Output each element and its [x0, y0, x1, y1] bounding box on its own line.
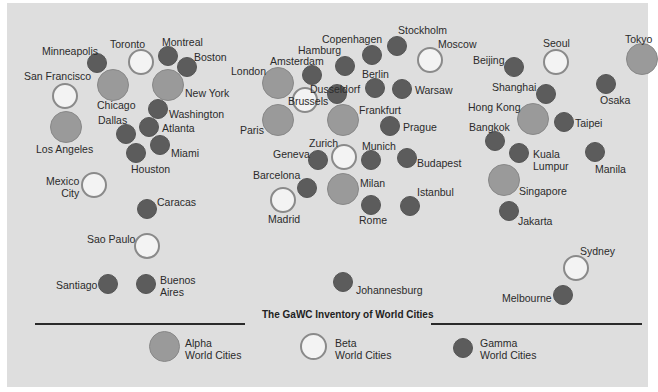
- city-label-minneapolis: Minneapolis: [42, 45, 98, 57]
- city-marker-santiago: [98, 274, 118, 294]
- city-marker-paris: [262, 104, 294, 136]
- city-marker-sao-paulo: [134, 233, 160, 259]
- city-marker-prague: [380, 116, 400, 136]
- city-marker-munich: [361, 150, 381, 170]
- city-label-los-angeles: Los Angeles: [36, 143, 93, 155]
- city-marker-seoul: [543, 49, 569, 75]
- city-label-montreal: Montreal: [162, 36, 203, 48]
- legend-gamma-icon: [453, 338, 473, 358]
- city-label-singapore: Singapore: [519, 185, 567, 197]
- city-label-buenos-aires: BuenosAires: [160, 274, 196, 298]
- city-label-shanghai: Shanghai: [492, 81, 536, 93]
- city-marker-melbourne: [553, 285, 573, 305]
- city-label-caracas: Caracas: [157, 196, 196, 208]
- city-label-amsterdam: Amsterdam: [270, 55, 324, 67]
- city-label-santiago: Santiago: [56, 279, 97, 291]
- legend-alpha-icon: [149, 331, 180, 362]
- legend-gamma-line2: World Cities: [480, 349, 536, 361]
- city-label-moscow: Moscow: [438, 38, 477, 50]
- city-marker-copenhagen: [362, 45, 382, 65]
- city-label-sao-paulo: Sao Paulo: [87, 233, 135, 245]
- city-marker-kuala-lumpur: [509, 143, 529, 163]
- city-label-dusseldorf: Dusseldorf: [310, 83, 360, 95]
- city-label-budapest: Budapest: [417, 157, 461, 169]
- city-marker-istanbul: [400, 196, 420, 216]
- city-label-rome: Rome: [359, 214, 387, 226]
- city-label-houston: Houston: [131, 163, 170, 175]
- city-label-hong-kong: Hong Kong: [468, 101, 521, 113]
- city-marker-miami: [150, 135, 170, 155]
- legend-beta-icon: [300, 333, 327, 360]
- divider-left: [35, 323, 245, 325]
- city-marker-jakarta: [499, 201, 519, 221]
- city-label-beijing: Beijing: [473, 54, 505, 66]
- city-label-toronto: Toronto: [110, 38, 145, 50]
- city-label-zurich: Zurich: [309, 137, 338, 149]
- city-marker-shanghai: [536, 84, 556, 104]
- city-marker-buenos-aires: [136, 274, 156, 294]
- city-marker-milan: [327, 173, 359, 205]
- city-marker-caracas: [137, 199, 157, 219]
- city-label-madrid: Madrid: [268, 213, 300, 225]
- city-label-san-francisco: San Francisco: [24, 70, 91, 82]
- city-marker-warsaw: [392, 79, 412, 99]
- city-label-melbourne: Melbourne: [502, 292, 552, 304]
- city-label-london: London: [231, 65, 266, 77]
- city-label-new-york: New York: [185, 87, 229, 99]
- city-label-miami: Miami: [171, 147, 199, 159]
- city-marker-amsterdam: [302, 65, 322, 85]
- city-label-mexico-city: MexicoCity: [46, 175, 79, 199]
- city-marker-chicago: [97, 69, 129, 101]
- legend-alpha-label: Alpha World Cities: [185, 337, 241, 361]
- city-label-dallas: Dallas: [98, 114, 127, 126]
- city-label-copenhagen: Copenhagen: [322, 33, 382, 45]
- city-marker-berlin: [365, 78, 385, 98]
- city-marker-hamburg: [335, 56, 355, 76]
- divider-right: [431, 323, 642, 325]
- city-marker-taipei: [554, 112, 574, 132]
- city-marker-los-angeles: [50, 111, 82, 143]
- city-label-seoul: Seoul: [543, 37, 570, 49]
- city-label-taipei: Taipei: [575, 117, 602, 129]
- city-marker-geneva: [308, 150, 328, 170]
- city-label-osaka: Osaka: [600, 94, 630, 106]
- city-marker-stockholm: [387, 36, 407, 56]
- city-marker-budapest: [397, 148, 417, 168]
- city-marker-montreal: [158, 46, 178, 66]
- city-label-paris: Paris: [240, 124, 264, 136]
- city-marker-manila: [585, 142, 605, 162]
- city-label-atlanta: Atlanta: [162, 122, 195, 134]
- city-marker-rome: [361, 195, 381, 215]
- city-label-chicago: Chicago: [97, 99, 136, 111]
- legend-beta-line1: Beta: [335, 337, 391, 349]
- city-label-berlin: Berlin: [362, 68, 389, 80]
- city-marker-washington: [148, 99, 168, 119]
- city-marker-singapore: [488, 164, 520, 196]
- city-marker-houston: [126, 143, 146, 163]
- city-label-manila: Manila: [595, 163, 626, 175]
- city-marker-moscow: [417, 47, 443, 73]
- city-marker-toronto: [128, 49, 154, 75]
- city-marker-bangkok: [485, 131, 505, 151]
- city-label-brussels: Brussels: [288, 95, 328, 107]
- city-label-hamburg: Hamburg: [298, 44, 341, 56]
- city-label-barcelona: Barcelona: [253, 169, 300, 181]
- city-label-milan: Milan: [360, 177, 385, 189]
- city-label-frankfurt: Frankfurt: [359, 104, 401, 116]
- city-label-stockholm: Stockholm: [398, 24, 447, 36]
- legend-beta-label: Beta World Cities: [335, 337, 391, 361]
- legend-beta-line2: World Cities: [335, 349, 391, 361]
- city-label-warsaw: Warsaw: [415, 84, 453, 96]
- city-marker-madrid: [270, 187, 296, 213]
- city-label-boston: Boston: [194, 51, 227, 63]
- city-marker-barcelona: [297, 178, 317, 198]
- city-label-washington: Washington: [169, 108, 224, 120]
- city-marker-hong-kong: [517, 103, 549, 135]
- city-label-kuala-lumpur: KualaLumpur: [533, 148, 569, 172]
- city-label-prague: Prague: [403, 121, 437, 133]
- city-label-tokyo: Tokyo: [625, 33, 652, 45]
- city-marker-osaka: [596, 74, 616, 94]
- city-label-munich: Munich: [362, 140, 396, 152]
- city-marker-mexico-city: [81, 172, 107, 198]
- city-label-geneva: Geneva: [273, 148, 310, 160]
